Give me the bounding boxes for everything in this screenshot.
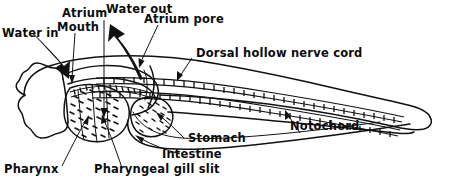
- label-mouth: Mouth: [57, 20, 99, 34]
- figure-canvas: Water in Mouth Atrium Water out Atrium p…: [0, 0, 454, 191]
- pharynx-leader-line: [62, 120, 86, 166]
- label-water-in: Water in: [2, 26, 59, 40]
- label-atrium: Atrium: [62, 6, 107, 20]
- gill-slit-leader-line: [104, 120, 122, 168]
- tail-tip-outline: [392, 117, 431, 130]
- label-stomach: Stomach: [188, 131, 246, 145]
- anatomy-diagram: Water in Mouth Atrium Water out Atrium p…: [0, 0, 454, 191]
- label-intestine: Intestine: [162, 147, 222, 161]
- water-out-arrow: [108, 24, 143, 80]
- label-pharyngeal-gill-slit: Pharyngeal gill slit: [94, 162, 220, 176]
- atrium-pore-arrowhead: [139, 58, 145, 68]
- atrium-leader-arrowhead: [101, 108, 108, 118]
- label-atrium-pore: Atrium pore: [144, 12, 224, 26]
- stomach-stipple: [136, 103, 170, 133]
- dorsal-body-outline: [24, 56, 430, 117]
- label-dorsal-nerve-cord: Dorsal hollow nerve cord: [196, 46, 363, 60]
- oral-hood-lower: [18, 95, 68, 138]
- nerve-cord-leader-line: [180, 58, 192, 76]
- atriopore-opening: [148, 66, 154, 108]
- anterior-lobe-group: [16, 63, 68, 138]
- label-pharynx: Pharynx: [4, 162, 59, 176]
- label-notochord: Notochord: [290, 119, 360, 133]
